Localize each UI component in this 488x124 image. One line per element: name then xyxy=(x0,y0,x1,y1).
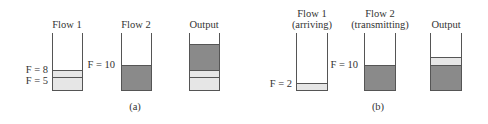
queue-subtitle-flow2-b: (transmitting) xyxy=(346,19,414,30)
caption-a: (a) xyxy=(120,101,150,112)
output-packet-f2 xyxy=(431,57,461,65)
finish-label-f8: F = 8 xyxy=(14,64,48,75)
output-packet-f10-b xyxy=(431,65,461,90)
queue-title-output-b: Output xyxy=(421,19,471,30)
queue-title-flow1-a: Flow 1 xyxy=(42,19,92,30)
packet-f10-b xyxy=(365,65,395,90)
queue-flow2-a xyxy=(121,33,152,91)
finish-label-f5: F = 5 xyxy=(14,75,48,86)
packet-f5 xyxy=(53,77,82,90)
queue-flow2-b xyxy=(364,33,396,91)
packet-f8 xyxy=(53,70,82,77)
queue-flow1-a xyxy=(52,33,83,91)
finish-label-f2: F = 2 xyxy=(258,78,292,89)
caption-b: (b) xyxy=(363,101,393,112)
queue-title-output-a: Output xyxy=(179,19,229,30)
queue-title-flow2-b: Flow 2 xyxy=(346,8,414,19)
output-packet-f10 xyxy=(190,44,219,70)
queue-output-a xyxy=(189,33,220,91)
queue-title-flow2-a: Flow 2 xyxy=(111,19,161,30)
queue-subtitle-flow1-b: (arriving) xyxy=(286,19,338,30)
packet-f2 xyxy=(297,83,327,90)
finish-label-f10-b: F = 10 xyxy=(322,59,358,70)
output-packet-f8 xyxy=(190,70,219,77)
finish-label-f10-a: F = 10 xyxy=(80,59,115,70)
queue-title-flow1-b: Flow 1 xyxy=(286,8,338,19)
output-packet-f5 xyxy=(190,77,219,90)
queue-output-b xyxy=(430,33,462,91)
packet-f10 xyxy=(122,65,151,90)
